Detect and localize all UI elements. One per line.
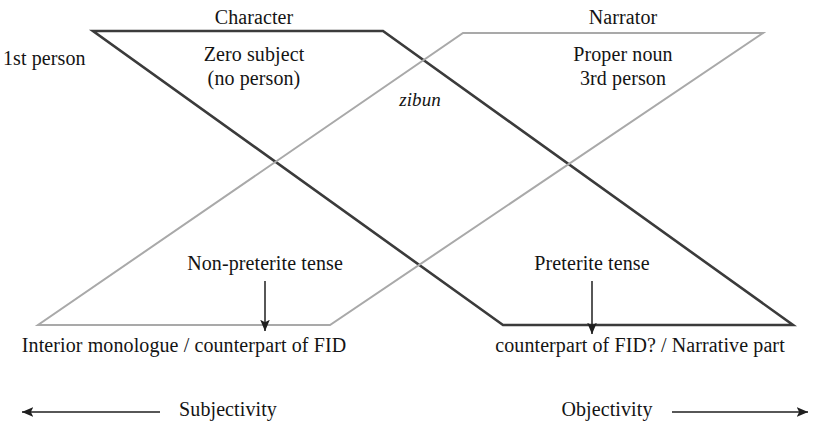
label-narrative-part: counterpart of FID? / Narrative part	[495, 334, 785, 358]
label-narrator: Narrator	[589, 6, 658, 30]
figure-diagram: Character Narrator 1st person Zero subje…	[0, 0, 814, 446]
label-first-person: 1st person	[3, 47, 86, 71]
label-interior-monologue: Interior monologue / counterpart of FID	[22, 334, 346, 358]
label-zero-subject-line2: (no person)	[204, 67, 305, 91]
character-parallelogram	[93, 31, 793, 325]
label-zero-subject: Zero subject (no person)	[204, 43, 305, 90]
label-zero-subject-line1: Zero subject	[204, 43, 305, 67]
label-character: Character	[215, 6, 294, 30]
label-subjectivity: Subjectivity	[179, 398, 277, 422]
label-objectivity: Objectivity	[561, 398, 652, 422]
diagram-shapes-layer	[0, 0, 814, 446]
label-proper-noun-line2: 3rd person	[573, 67, 672, 91]
label-preterite-tense: Preterite tense	[534, 252, 649, 276]
label-zibun: zibun	[399, 89, 441, 111]
label-proper-noun: Proper noun 3rd person	[573, 43, 672, 90]
label-non-preterite-tense: Non-preterite tense	[187, 252, 343, 276]
label-proper-noun-line1: Proper noun	[573, 43, 672, 67]
